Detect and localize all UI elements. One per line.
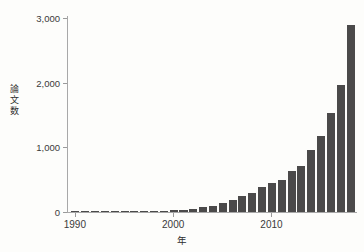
bar: [287, 171, 296, 212]
bar: [139, 211, 148, 212]
bar: [316, 136, 325, 212]
x-tick-mark: [271, 213, 272, 217]
bar: [237, 196, 246, 212]
bar: [169, 210, 178, 212]
bar: [267, 183, 276, 212]
bar: [326, 113, 335, 212]
bar: [129, 211, 138, 212]
bar: [296, 166, 305, 212]
bar: [247, 193, 256, 212]
bar: [90, 211, 99, 212]
bar: [159, 211, 168, 212]
bar: [198, 207, 207, 212]
y-tick-label: 3,000: [36, 13, 60, 24]
bar: [218, 203, 227, 212]
bar: [208, 206, 217, 212]
y-tick-label: 1,000: [36, 142, 60, 153]
y-tick-label: 2,000: [36, 77, 60, 88]
bar: [306, 150, 315, 212]
bar: [70, 211, 79, 212]
bar: [80, 211, 89, 212]
bar: [336, 85, 345, 212]
bar: [120, 211, 129, 212]
bar: [277, 180, 286, 212]
bar: [346, 25, 355, 212]
bar-chart-figure: 論 文 数 01,0002,0003,000 199020002010 年: [0, 0, 364, 252]
bar: [188, 209, 197, 212]
x-tick-label: 1990: [64, 219, 86, 230]
plot-area: [68, 18, 357, 212]
bar: [100, 211, 109, 212]
bar: [228, 200, 237, 212]
x-axis-title: 年: [0, 233, 364, 247]
bar: [149, 211, 158, 212]
x-tick-mark: [173, 213, 174, 217]
bar: [257, 187, 266, 212]
x-tick-label: 2010: [260, 219, 282, 230]
x-tick-mark: [75, 213, 76, 217]
bar: [110, 211, 119, 212]
bar: [178, 210, 187, 212]
x-tick-label: 2000: [162, 219, 184, 230]
